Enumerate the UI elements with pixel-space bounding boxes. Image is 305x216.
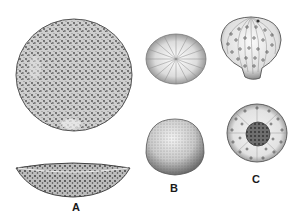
figure-a-side-view xyxy=(14,160,132,200)
label-b: B xyxy=(170,183,178,194)
label-a: A xyxy=(72,202,80,213)
figure-b-top-view xyxy=(144,32,208,86)
figure-a-top-view xyxy=(13,16,135,134)
figure-b-side-view xyxy=(142,117,208,179)
figure-c-top-view xyxy=(225,102,289,164)
figure-c-side-view xyxy=(218,14,284,82)
label-c: C xyxy=(252,174,260,185)
